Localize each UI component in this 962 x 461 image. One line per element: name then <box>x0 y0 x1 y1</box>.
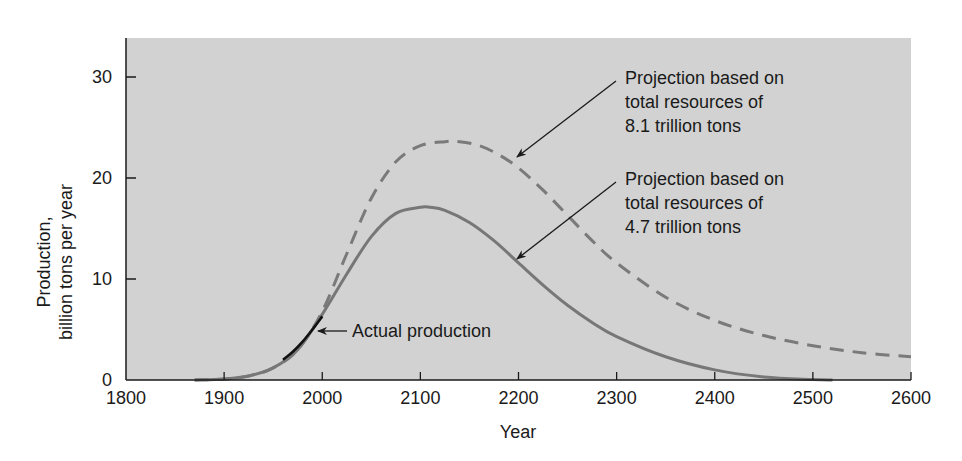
x-axis-title: Year <box>500 422 536 442</box>
x-tick-label: 1900 <box>204 388 244 408</box>
y-tick-label: 10 <box>92 269 112 289</box>
annotation-line: 8.1 trillion tons <box>625 116 741 136</box>
y-axis-title-line1: Production, <box>34 216 54 307</box>
annotation-line: 4.7 trillion tons <box>625 217 741 237</box>
y-tick-label: 30 <box>92 67 112 87</box>
chart: 180019002000210022002300240025002600 010… <box>0 0 962 461</box>
y-axis-title: Production, billion tons per year <box>34 184 76 340</box>
x-tick-label: 2600 <box>891 388 931 408</box>
x-tick-label: 2100 <box>400 388 440 408</box>
plot-background <box>126 38 911 380</box>
x-tick-label: 2500 <box>793 388 833 408</box>
annotation-line: total resources of <box>625 193 764 213</box>
annotation-line: Projection based on <box>625 68 784 88</box>
x-tick-label: 2300 <box>597 388 637 408</box>
x-tick-label: 1800 <box>106 388 146 408</box>
y-tick-label: 0 <box>102 370 112 390</box>
annotation-line: total resources of <box>625 92 764 112</box>
x-tick-label: 2200 <box>498 388 538 408</box>
annotation-line: Actual production <box>352 321 491 341</box>
y-tick-label: 20 <box>92 168 112 188</box>
y-axis-title-line2: billion tons per year <box>56 184 76 340</box>
x-tick-label: 2000 <box>302 388 342 408</box>
x-tick-label: 2400 <box>695 388 735 408</box>
annotation-line: Projection based on <box>625 169 784 189</box>
